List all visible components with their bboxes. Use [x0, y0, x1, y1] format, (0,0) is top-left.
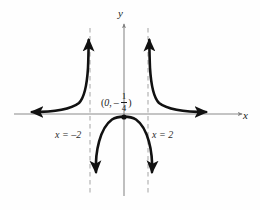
- curve-right-branch: [149, 40, 206, 112]
- y-axis-label: y: [118, 8, 123, 19]
- intercept-close-paren: ): [128, 98, 131, 108]
- intercept-fraction: 1 4: [121, 92, 128, 113]
- intercept-comma: ,: [109, 98, 112, 108]
- fraction-denominator: 4: [121, 103, 128, 113]
- asymptote-label-right: x = 2: [152, 130, 173, 140]
- asymptote-label-left: x = –2: [55, 130, 81, 140]
- curve-left-branch: [32, 40, 89, 112]
- intercept-label: ( 0 , – 1 4 ): [101, 92, 132, 113]
- graph-figure: y x x = –2 x = 2 ( 0 , – 1 4 ): [0, 0, 260, 210]
- intercept-minus-sign: –: [114, 98, 119, 108]
- x-axis-label: x: [243, 110, 248, 121]
- intercept-point: [121, 114, 126, 119]
- fraction-numerator: 1: [121, 92, 128, 103]
